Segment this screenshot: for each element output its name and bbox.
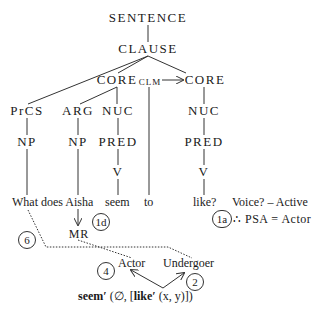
word-to: to <box>144 195 153 209</box>
node-core-right: CORE <box>185 73 226 87</box>
node-v-left: V <box>113 165 124 179</box>
ls-like: like′ <box>134 289 156 303</box>
psa-annotation: ∴ PSA = Actor <box>233 212 311 226</box>
node-pred-left: PRED <box>98 135 137 149</box>
node-nuc-right: NUC <box>188 104 220 118</box>
ls-open: (∅, [ <box>107 289 134 303</box>
step-1d-badge: 1d <box>92 213 110 231</box>
node-core-left: CORE <box>97 73 138 87</box>
word-seem: seem <box>105 195 130 209</box>
undergoer-label: Undergoer <box>163 256 214 270</box>
node-clause: CLAUSE <box>118 42 178 56</box>
step-4-badge: 4 <box>97 262 115 280</box>
node-prcs: PrCS <box>10 104 43 118</box>
node-np-prcs: NP <box>17 135 37 149</box>
voice-annotation: Voice? – Active <box>232 195 308 209</box>
logical-structure: seem′ (∅, [like′ (x, y)]) <box>78 289 193 303</box>
node-np-arg: NP <box>68 135 88 149</box>
node-clm: CLM <box>139 75 162 89</box>
node-nuc-left: NUC <box>102 104 134 118</box>
word-like: like? <box>193 195 216 209</box>
word-what-does-aisha: What does Aisha <box>12 195 93 209</box>
step-1a-badge: 1a <box>212 210 232 228</box>
actor-label: Actor <box>118 256 145 270</box>
node-v-right: V <box>199 165 210 179</box>
ls-seem: seem′ <box>78 289 107 303</box>
node-arg: ARG <box>62 104 94 118</box>
node-pred-right: PRED <box>184 135 223 149</box>
node-sentence: SENTENCE <box>109 11 187 25</box>
mr-label: MR <box>69 227 90 241</box>
ls-args: (x, y)]) <box>156 289 193 303</box>
step-6-badge: 6 <box>18 231 36 249</box>
